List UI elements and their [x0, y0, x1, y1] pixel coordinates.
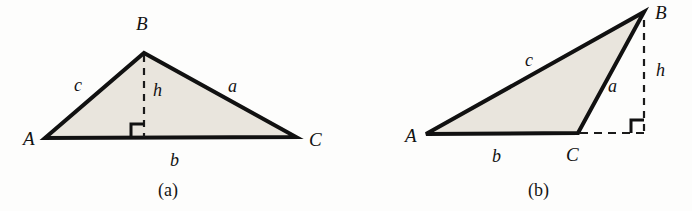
vertex-label-b-A: A: [403, 125, 417, 146]
side-label-b-c: c: [525, 50, 533, 70]
vertex-label-a-A: A: [21, 128, 35, 149]
figure-canvas: A B C c a b h (a) A B C c a b h (b): [0, 0, 692, 211]
side-label-b-a: a: [608, 76, 617, 96]
side-label-a-a: a: [228, 76, 237, 96]
side-label-b-h: h: [656, 60, 665, 80]
vertex-label-b-B: B: [655, 2, 667, 23]
side-label-a-b: b: [170, 150, 179, 170]
caption-panel-b: (b): [528, 180, 549, 201]
caption-panel-a: (a): [158, 180, 178, 201]
vertex-label-a-C: C: [309, 129, 322, 150]
triangle-figure-container: A B C c a b h (a) A B C c a b h (b): [0, 0, 692, 211]
side-label-a-c: c: [74, 75, 82, 95]
vertex-label-a-B: B: [136, 13, 148, 34]
side-label-a-h: h: [153, 80, 162, 100]
vertex-label-b-C: C: [566, 144, 579, 165]
side-label-b-b: b: [492, 146, 501, 166]
